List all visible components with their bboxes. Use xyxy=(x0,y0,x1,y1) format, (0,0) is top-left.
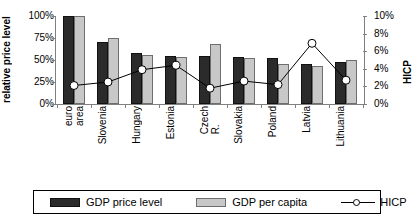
legend-item-gdp-per-capita: GDP per capita xyxy=(196,196,307,208)
hicp-marker xyxy=(70,82,78,90)
y-axis-right-tick: 0% xyxy=(374,99,408,109)
legend-item-gdp-price-level: GDP price level xyxy=(50,196,162,208)
chart-container: relative price level HICP 0%25%50%75%100… xyxy=(0,0,414,224)
hicp-marker xyxy=(104,78,112,86)
hicp-marker xyxy=(308,39,316,47)
x-axis-category-labels: euro areaSloveniaHungaryEstoniaCzech R.S… xyxy=(57,106,363,176)
y-axis-right-tick-mark xyxy=(363,16,367,17)
legend-line-marker-icon xyxy=(341,198,375,207)
y-axis-left-tick: 50% xyxy=(14,55,54,65)
hicp-marker xyxy=(274,81,282,89)
x-axis-category-label: Estonia xyxy=(165,106,176,139)
y-axis-right-line xyxy=(364,16,365,105)
y-axis-right-tick: 6% xyxy=(374,46,408,56)
y-axis-right-tick-mark xyxy=(363,86,367,87)
hicp-marker xyxy=(172,61,180,69)
x-axis-category-label: Slovenia xyxy=(97,106,108,144)
y-axis-right-tick-mark xyxy=(363,51,367,52)
y-axis-right-tick: 2% xyxy=(374,81,408,91)
hicp-polyline xyxy=(74,43,346,88)
hicp-marker xyxy=(206,84,214,92)
y-axis-left-tick-mark xyxy=(52,38,56,39)
x-axis-tick-mark xyxy=(363,104,364,108)
x-axis-category-label: Lithuania xyxy=(335,106,346,147)
x-axis-category-label: Slovakia xyxy=(233,106,244,144)
x-axis-category-label: Czech R. xyxy=(199,106,221,134)
hicp-marker xyxy=(138,66,146,74)
legend-label-gdp-per-capita: GDP per capita xyxy=(232,196,307,208)
y-axis-left-tick-mark xyxy=(52,82,56,83)
y-axis-left-title: relative price level xyxy=(1,14,12,106)
hicp-marker xyxy=(240,77,248,85)
y-axis-right-tick: 4% xyxy=(374,64,408,74)
legend-label-hicp: HICP xyxy=(380,196,406,208)
y-axis-left-tick: 0% xyxy=(14,99,54,109)
plot-area xyxy=(57,16,363,104)
legend-swatch-dark-icon xyxy=(50,198,80,207)
y-axis-left-tick: 25% xyxy=(14,77,54,87)
x-axis-category-label: Latvia xyxy=(301,106,312,133)
legend-item-hicp: HICP xyxy=(341,196,406,208)
x-axis-category-label: Hungary xyxy=(131,106,142,144)
y-axis-left-tick-mark xyxy=(52,60,56,61)
y-axis-right-tick-mark xyxy=(363,34,367,35)
y-axis-left-tick-mark xyxy=(52,104,56,105)
y-axis-left-tick: 100% xyxy=(14,11,54,21)
y-axis-right-tick: 8% xyxy=(374,29,408,39)
x-axis-category-label: euro area xyxy=(63,106,85,126)
legend-swatch-light-icon xyxy=(196,198,226,207)
hicp-marker xyxy=(342,76,350,84)
y-axis-left-tick: 75% xyxy=(14,33,54,43)
y-axis-right-tick-mark xyxy=(363,69,367,70)
y-axis-left-tick-mark xyxy=(52,16,56,17)
x-axis-line xyxy=(55,104,366,105)
hicp-line-series xyxy=(57,16,363,104)
legend-label-gdp-price-level: GDP price level xyxy=(86,196,162,208)
x-axis-category-label: Poland xyxy=(267,106,278,137)
y-axis-right-tick: 10% xyxy=(374,11,408,21)
chart-legend: GDP price level GDP per capita HICP xyxy=(33,190,381,214)
